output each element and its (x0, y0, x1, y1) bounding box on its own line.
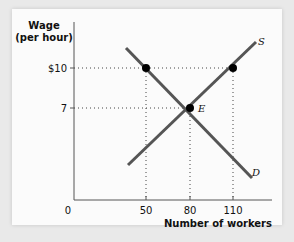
y-axis-label-line1: Wage (28, 20, 60, 31)
demand-label: D (251, 167, 260, 178)
y-axis-label-line2: (per hour) (15, 32, 73, 43)
y-tick-7: 7 (61, 103, 67, 114)
supply-curve (128, 42, 256, 165)
supply-label: S (258, 36, 265, 47)
point-50-10 (142, 64, 150, 72)
x-tick-0: 0 (65, 205, 71, 216)
equilibrium-point (186, 104, 194, 112)
equilibrium-label: E (197, 103, 206, 114)
chart: Wage (per hour) $10 7 0 50 80 110 Number… (0, 0, 294, 242)
y-tick-10: $10 (48, 63, 67, 74)
x-tick-110: 110 (223, 205, 242, 216)
point-110-10 (229, 64, 237, 72)
x-tick-80: 80 (184, 205, 197, 216)
x-tick-50: 50 (140, 205, 153, 216)
x-axis-label: Number of workers (164, 218, 272, 229)
